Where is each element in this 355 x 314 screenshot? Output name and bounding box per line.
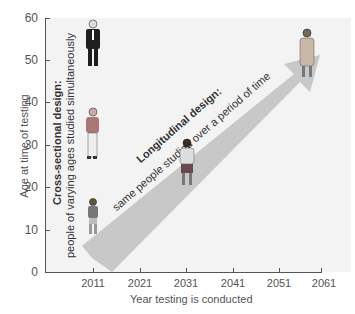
person-figures: [0, 0, 355, 314]
longitudinal-adult-icon: [180, 139, 194, 185]
adult-woman-icon: [86, 108, 99, 159]
longitudinal-older-icon: [300, 29, 314, 77]
older-man-icon: [86, 20, 100, 66]
child-icon: [88, 199, 98, 235]
